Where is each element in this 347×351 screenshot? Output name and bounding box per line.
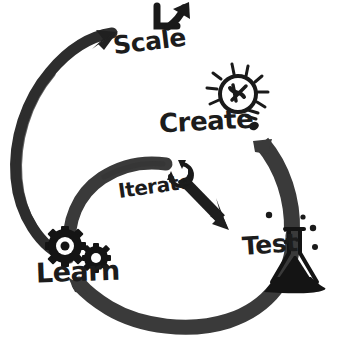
node-label-create: Create [158,106,253,137]
diagram-canvas: Scale Create Test Learn Iterate [0,0,347,351]
node-label-test: Test [241,230,298,259]
node-label-learn: Learn [36,257,121,287]
